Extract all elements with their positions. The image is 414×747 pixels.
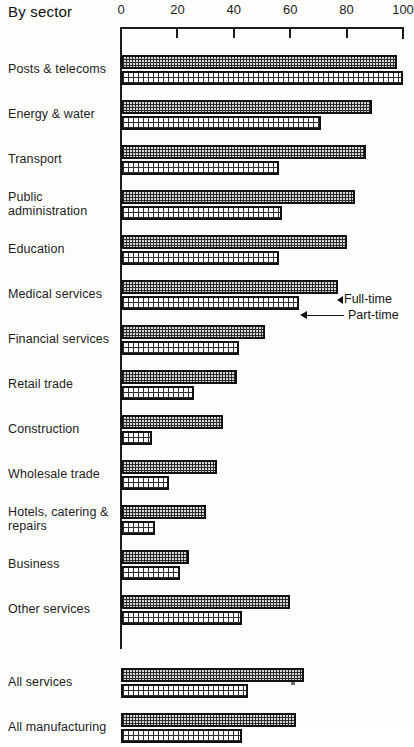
bar-part-time bbox=[121, 566, 180, 580]
axis-line bbox=[120, 27, 403, 29]
axis-tick-label-60: 60 bbox=[283, 2, 297, 17]
bar-full-time bbox=[121, 415, 223, 429]
bar-full-time bbox=[121, 280, 338, 294]
summary-row-group: All manufacturing bbox=[0, 713, 410, 747]
axis-tick-label-40: 40 bbox=[227, 2, 241, 17]
category-label: Public administration bbox=[8, 190, 116, 218]
category-label: Financial services bbox=[8, 332, 116, 346]
bar-part-time bbox=[121, 476, 169, 490]
bar-part-time bbox=[121, 729, 242, 743]
bar-part-time bbox=[121, 71, 403, 85]
plot-area: Posts & telecomsEnergy & waterTransportP… bbox=[0, 39, 410, 724]
axis-tick-20 bbox=[176, 27, 178, 38]
axis-tick-40 bbox=[233, 27, 235, 38]
bar-full-time bbox=[121, 460, 217, 474]
bar-full-time bbox=[121, 550, 189, 564]
sector-row-group: Business bbox=[0, 550, 410, 584]
sector-row-group: Construction bbox=[0, 415, 410, 449]
legend-full-time-label: Full-time bbox=[344, 292, 392, 306]
axis-tick-label-20: 20 bbox=[170, 2, 184, 17]
category-label: Posts & telecoms bbox=[8, 62, 116, 76]
category-label: Education bbox=[8, 242, 116, 256]
bar-part-time bbox=[121, 251, 279, 265]
legend-full-time: Full-time bbox=[337, 292, 392, 306]
axis-tick-label-0: 0 bbox=[117, 2, 124, 17]
arrow-left-icon bbox=[300, 311, 344, 320]
bar-part-time bbox=[121, 431, 152, 445]
bar-part-time bbox=[121, 341, 239, 355]
category-label: Retail trade bbox=[8, 377, 116, 391]
sector-row-group: Hotels, catering & repairs bbox=[0, 505, 410, 539]
bar-full-time bbox=[121, 505, 206, 519]
axis-tick-label-80: 80 bbox=[339, 2, 353, 17]
bar-full-time bbox=[121, 325, 265, 339]
category-label: Business bbox=[8, 557, 116, 571]
bar-full-time bbox=[121, 190, 355, 204]
x-axis-rule bbox=[120, 27, 403, 39]
category-label: Transport bbox=[8, 152, 116, 166]
category-label: Hotels, catering & repairs bbox=[8, 505, 116, 533]
bar-full-time bbox=[121, 713, 296, 727]
axis-tick-100 bbox=[402, 27, 404, 39]
bar-full-time bbox=[121, 668, 304, 682]
category-label: Energy & water bbox=[8, 107, 116, 121]
bar-full-time bbox=[121, 370, 237, 384]
bar-full-time bbox=[121, 145, 366, 159]
legend-part-time-label: Part-time bbox=[348, 308, 399, 322]
bar-part-time bbox=[121, 386, 194, 400]
bar-part-time bbox=[121, 161, 279, 175]
sector-row-group: Energy & water bbox=[0, 100, 410, 134]
axis-tick-80 bbox=[346, 27, 348, 38]
legend-part-time: Part-time bbox=[300, 308, 399, 322]
category-label: Construction bbox=[8, 422, 116, 436]
category-label: All manufacturing bbox=[8, 720, 116, 734]
x-axis-tick-labels: 020406080100 bbox=[0, 2, 410, 22]
category-label: Other services bbox=[8, 602, 116, 616]
summary-row-group: All services bbox=[0, 668, 410, 702]
axis-tick-60 bbox=[289, 27, 291, 38]
bar-full-time bbox=[121, 100, 372, 114]
stray-print-mark bbox=[291, 682, 295, 685]
axis-tick-0 bbox=[120, 27, 122, 39]
category-label: All services bbox=[8, 675, 116, 689]
bar-part-time bbox=[121, 206, 282, 220]
bar-part-time bbox=[121, 611, 242, 625]
sector-row-group: Financial services bbox=[0, 325, 410, 359]
bar-part-time bbox=[121, 521, 155, 535]
sector-row-group: Education bbox=[0, 235, 410, 269]
category-label: Medical services bbox=[8, 287, 116, 301]
bar-part-time bbox=[121, 296, 299, 310]
bar-full-time bbox=[121, 235, 347, 249]
bar-full-time bbox=[121, 55, 397, 69]
sector-row-group: Transport bbox=[0, 145, 410, 179]
bar-part-time bbox=[121, 684, 248, 698]
bar-part-time bbox=[121, 116, 321, 130]
triangle-left-icon bbox=[337, 296, 343, 304]
axis-tick-label-100: 100 bbox=[392, 2, 414, 17]
sector-row-group: Other services bbox=[0, 595, 410, 629]
sector-row-group: Public administration bbox=[0, 190, 410, 224]
sector-row-group: Wholesale trade bbox=[0, 460, 410, 494]
bar-full-time bbox=[121, 595, 290, 609]
sector-row-group: Retail trade bbox=[0, 370, 410, 404]
category-label: Wholesale trade bbox=[8, 467, 116, 481]
sector-row-group: Posts & telecoms bbox=[0, 55, 410, 89]
